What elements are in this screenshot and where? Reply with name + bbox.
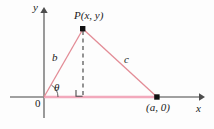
side-c-label: c: [124, 54, 129, 65]
x-axis-arrow-icon: [199, 93, 205, 101]
y-axis: [40, 7, 47, 118]
theta-angle-label: θ: [54, 82, 59, 93]
x-axis-label: x: [196, 103, 201, 114]
side-b-label: b: [52, 52, 58, 63]
diagram-canvas: [0, 0, 214, 129]
apex-point-label: P(x, y): [74, 10, 103, 21]
triangle-side-c: [83, 29, 157, 97]
triangle-coordinate-diagram: y x 0 P(x, y) b c θ (a, 0): [0, 0, 214, 129]
y-axis-label: y: [33, 2, 38, 13]
base-right-point-label: (a, 0): [146, 102, 170, 113]
apex-point-marker: [80, 26, 85, 31]
y-axis-arrow-icon: [40, 7, 47, 13]
origin-label: 0: [35, 98, 41, 109]
triangle-side-b: [44, 29, 83, 97]
base-right-point-marker: [154, 94, 159, 99]
right-angle-marker-icon: [76, 90, 83, 96]
